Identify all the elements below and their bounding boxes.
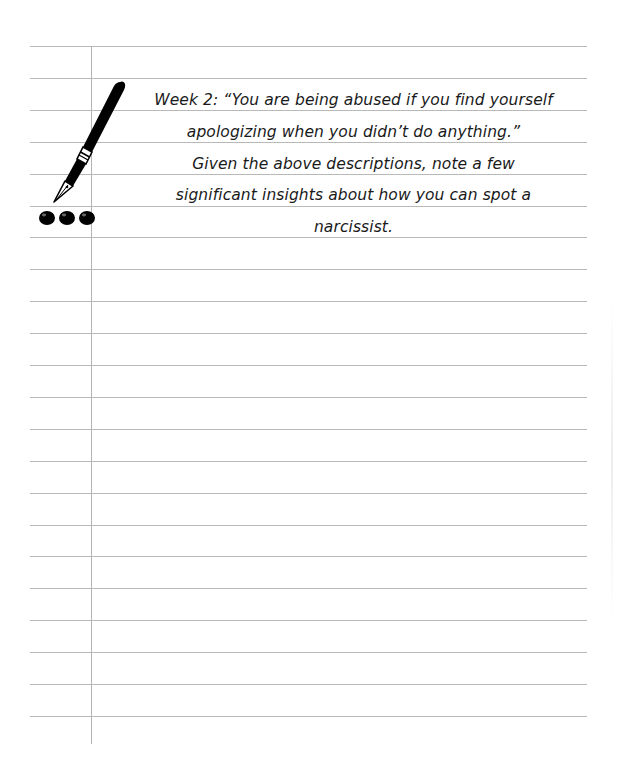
page-edge-shadow — [611, 300, 613, 620]
ink-drops-icon — [38, 209, 98, 227]
ruled-line — [30, 684, 587, 685]
ruled-line — [30, 461, 587, 462]
ruled-line — [30, 301, 587, 302]
prompt-line-4: significant insights about how you can s… — [140, 183, 567, 215]
ruled-line — [30, 556, 587, 557]
ruled-line — [30, 588, 587, 589]
fountain-pen-icon — [40, 78, 130, 208]
ruled-line — [30, 652, 587, 653]
ruled-line — [30, 525, 587, 526]
ruled-line — [30, 333, 587, 334]
ruled-line — [30, 46, 587, 47]
ruled-line — [30, 365, 587, 366]
prompt-line-3: Given the above descriptions, note a few — [140, 152, 567, 184]
prompt-line-2: apologizing when you didn’t do anything.… — [140, 120, 567, 152]
journal-prompt: Week 2: “You are being abused if you fin… — [140, 88, 567, 247]
ruled-line — [30, 429, 587, 430]
ruled-line — [30, 620, 587, 621]
ruled-line — [30, 493, 587, 494]
ruled-line — [30, 716, 587, 717]
journal-page: Week 2: “You are being abused if you fin… — [0, 0, 617, 766]
ruled-line — [30, 269, 587, 270]
prompt-line-5: narcissist. — [140, 215, 567, 247]
prompt-line-1: Week 2: “You are being abused if you fin… — [140, 88, 567, 120]
ruled-line — [30, 397, 587, 398]
